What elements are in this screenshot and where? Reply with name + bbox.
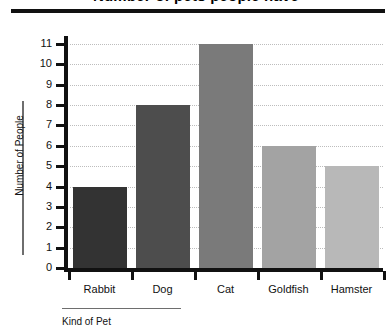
bar (73, 187, 127, 268)
x-axis-tick-label: Goldfish (257, 283, 320, 295)
bar-chart: 11109876543210 RabbitDogCatGoldfishHamst… (0, 0, 392, 335)
x-axis-tick (194, 271, 197, 280)
x-axis-tick (257, 271, 260, 280)
x-axis-title-divider (62, 308, 181, 309)
x-axis-tick-label: Cat (194, 283, 257, 295)
bar (325, 166, 379, 268)
x-axis-tick-label: Dog (131, 283, 194, 295)
bar (262, 146, 316, 268)
x-axis-title: Kind of Pet (62, 316, 111, 327)
y-axis-title: Number of People (14, 91, 25, 221)
bar (199, 44, 253, 268)
x-axis-tick-label: Rabbit (68, 283, 131, 295)
bars-group (0, 0, 392, 268)
x-axis-line (64, 268, 383, 272)
x-axis-tick (320, 271, 323, 280)
x-axis-tick (131, 271, 134, 280)
x-axis-tick (68, 271, 71, 280)
bar (136, 105, 190, 268)
x-axis-tick-label: Hamster (320, 283, 383, 295)
x-axis-tick (383, 271, 386, 280)
